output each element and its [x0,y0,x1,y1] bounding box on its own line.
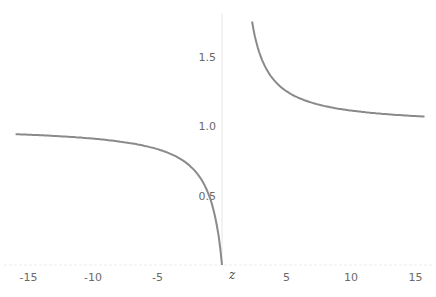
x-tick-label: -5 [152,271,163,284]
y-tick-label: 1.0 [199,120,217,133]
x-tick-label: -15 [20,271,38,284]
x-axis-label: z [228,268,236,282]
curve-left-branch [16,134,222,265]
x-tick-label: -10 [84,271,102,284]
x-tick-labels: -15-10-551015 [20,271,423,284]
x-tick-label: 10 [344,271,358,284]
chart: 0.51.01.5 -15-10-551015 z [0,0,436,297]
x-tick-label: 5 [283,271,290,284]
y-tick-label: 1.5 [199,51,217,64]
curve-right-branch [252,22,424,117]
x-tick-label: 15 [409,271,423,284]
